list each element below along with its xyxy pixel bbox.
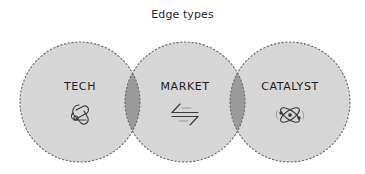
node-label-catalyst: CATALYST	[240, 80, 340, 93]
circle-tech	[20, 42, 140, 162]
node-label-tech: TECH	[30, 80, 130, 93]
circle-catalyst	[230, 42, 350, 162]
node-label-market: MARKET	[135, 80, 235, 93]
circle-market	[125, 42, 245, 162]
